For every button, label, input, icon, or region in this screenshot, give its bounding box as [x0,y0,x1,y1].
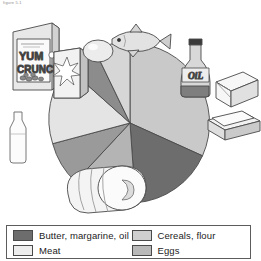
legend-item-meat: Meat [13,245,132,256]
margarine-tub [208,111,260,140]
butter-block [216,72,258,107]
oil-bottle: OiL [181,39,210,97]
meat-roll [67,166,146,213]
legend-item-butter-margarine-oil: Butter, margarine, oil [13,230,132,241]
cereal-box: YUM CRUNCH [13,23,60,90]
legend-label-meat: Meat [39,245,61,256]
legend-label-cereals-flour: Cereals, flour [158,230,216,241]
legend-swatch-meat [13,245,33,256]
chart-legend: Butter, margarine, oil Cereals, flour Me… [6,225,251,259]
legend-label-eggs: Eggs [158,245,180,256]
legend-item-eggs: Eggs [132,245,251,256]
legend-label-butter-margarine-oil: Butter, margarine, oil [39,230,129,241]
milk-bottle [10,112,26,163]
legend-swatch-cereals-flour [132,230,152,241]
pie-chart-illustration: YUM CRUNCH [0,8,261,220]
egg [83,40,113,62]
legend-swatch-eggs [132,245,152,256]
cereal-box-line1: YUM [19,50,43,62]
figure-caption: figure 5.1 [3,0,22,6]
legend-item-cereals-flour: Cereals, flour [132,230,251,241]
oil-bottle-label: OiL [188,71,204,81]
juice-carton [53,48,88,98]
legend-swatch-butter-margarine-oil [13,230,33,241]
